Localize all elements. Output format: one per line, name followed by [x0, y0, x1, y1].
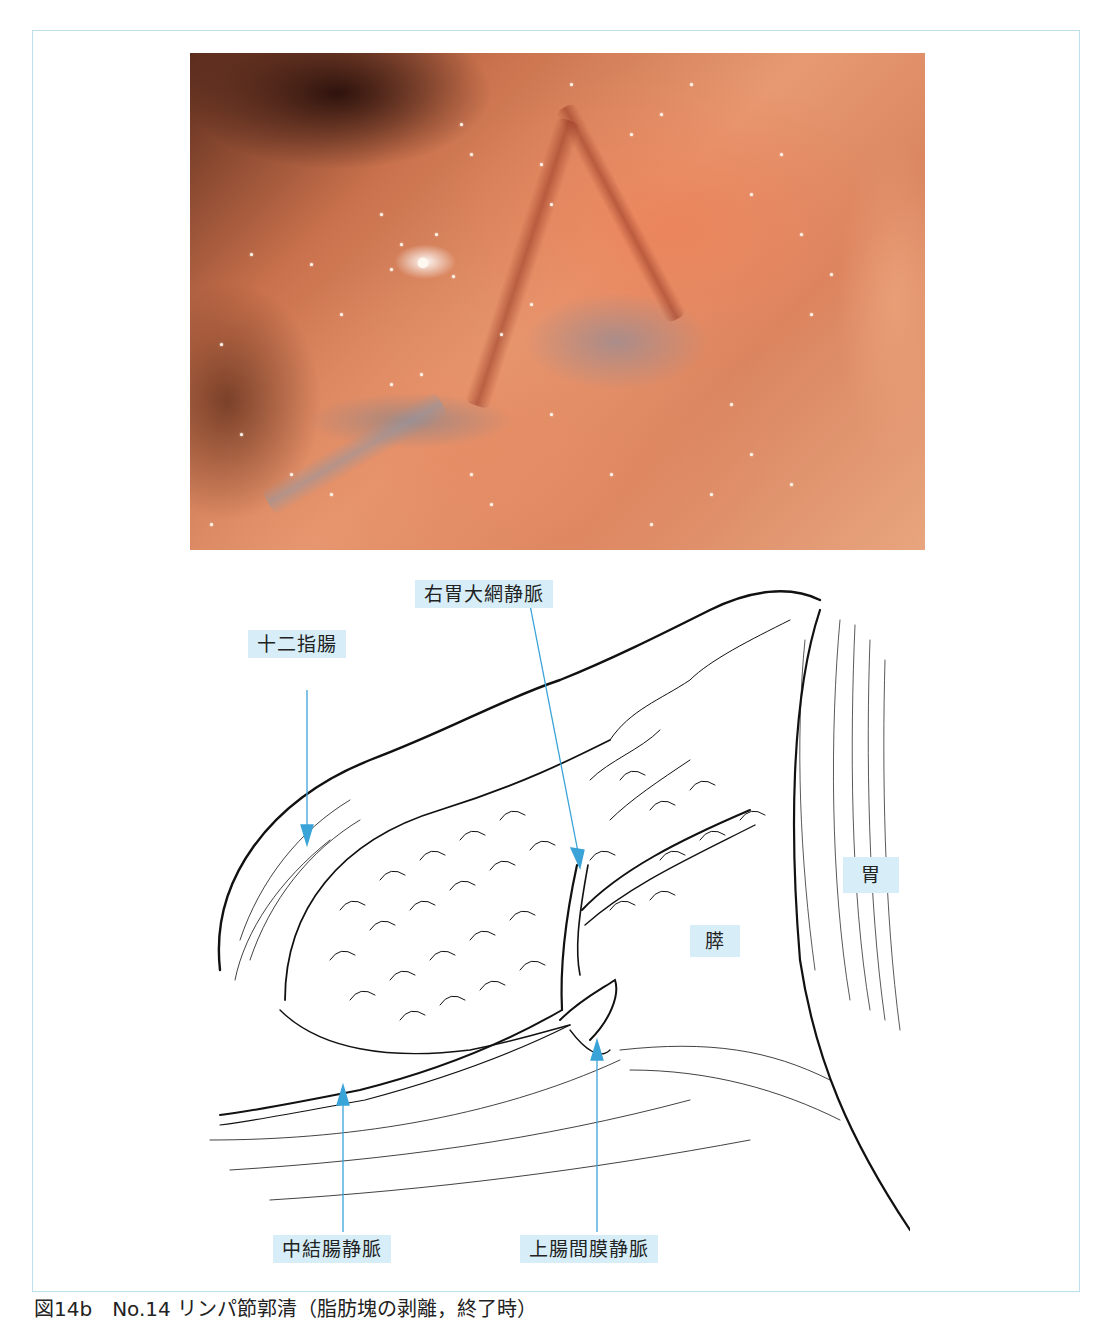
light-reflection — [210, 523, 213, 526]
label-duodenum: 十二指腸 — [248, 630, 346, 658]
light-reflection — [240, 433, 243, 436]
light-reflection — [310, 263, 313, 266]
vein-shape — [261, 390, 449, 516]
light-reflection — [790, 483, 793, 486]
label-superior-mesenteric-vein: 上腸間膜静脈 — [520, 1235, 658, 1263]
light-reflection — [730, 403, 733, 406]
light-reflection — [490, 503, 493, 506]
light-reflection — [710, 493, 713, 496]
light-reflection — [830, 273, 833, 276]
vessel-shape — [464, 116, 581, 409]
light-reflection — [460, 123, 463, 126]
light-reflection — [340, 313, 343, 316]
light-reflection — [550, 413, 553, 416]
light-reflection — [435, 233, 438, 236]
light-reflection — [290, 473, 293, 476]
label-middle-colic-vein: 中結腸静脈 — [273, 1235, 391, 1263]
light-reflection — [610, 473, 613, 476]
surgical-photo — [190, 53, 925, 550]
light-reflection — [390, 268, 393, 271]
vessel-shape — [555, 102, 687, 324]
light-reflection — [530, 303, 533, 306]
light-reflection — [390, 383, 393, 386]
light-reflection — [660, 113, 663, 116]
light-reflection — [400, 243, 403, 246]
anatomical-illustration — [190, 580, 910, 1245]
light-reflection — [380, 213, 383, 216]
light-reflection — [630, 133, 633, 136]
light-reflection — [810, 313, 813, 316]
light-reflection — [800, 233, 803, 236]
light-reflection — [250, 253, 253, 256]
light-reflection — [570, 83, 573, 86]
label-stomach: 胃 — [843, 857, 899, 893]
light-reflection — [780, 153, 783, 156]
light-reflection — [420, 373, 423, 376]
light-reflection — [220, 343, 223, 346]
light-reflection — [690, 83, 693, 86]
light-reflection — [750, 453, 753, 456]
figure-caption: 図14b No.14 リンパ節郭清（脂肪塊の剥離，終了時） — [34, 1297, 537, 1321]
light-reflection — [550, 203, 553, 206]
light-reflection — [540, 163, 543, 166]
light-reflection — [418, 258, 428, 268]
light-reflection — [750, 193, 753, 196]
label-right-gastroepiploic-vein: 右胃大網静脈 — [415, 580, 553, 608]
light-reflection — [500, 333, 503, 336]
light-reflection — [470, 153, 473, 156]
light-reflection — [470, 473, 473, 476]
light-reflection — [650, 523, 653, 526]
light-reflection — [330, 493, 333, 496]
label-pancreas: 膵 — [690, 925, 740, 957]
light-reflection — [452, 275, 455, 278]
